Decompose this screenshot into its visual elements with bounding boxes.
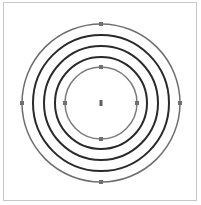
concentric-circles-diagram[interactable] [0,0,201,205]
inner-ring-handle-top[interactable] [99,65,103,69]
center-marker[interactable] [100,100,103,106]
inner-ring-handle-right[interactable] [135,101,139,105]
inner-ring-handle-bottom[interactable] [99,137,103,141]
outer-ring-handle-bottom[interactable] [99,180,103,184]
outer-ring-handle-right[interactable] [178,101,182,105]
outer-ring-handle-top[interactable] [99,22,103,26]
outer-ring-handle-left[interactable] [20,101,24,105]
inner-ring-handle-left[interactable] [63,101,67,105]
